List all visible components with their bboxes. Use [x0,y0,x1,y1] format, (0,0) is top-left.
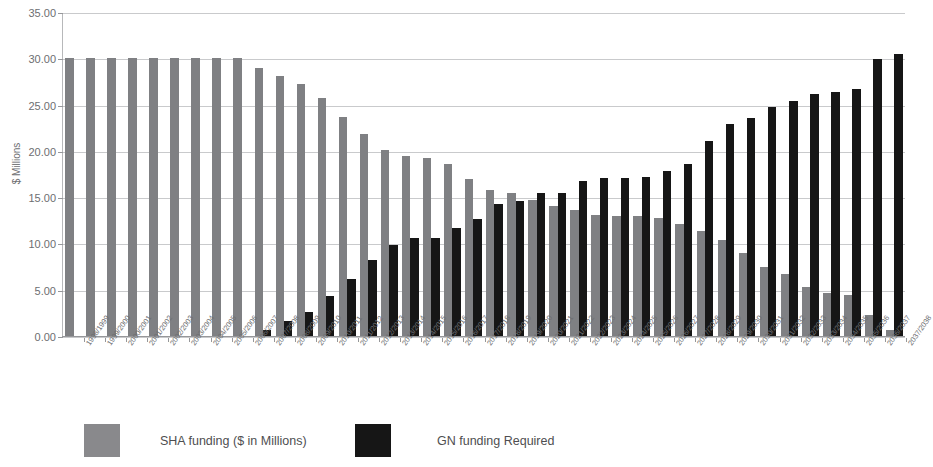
bar-group [358,13,379,336]
bar-group [84,13,105,336]
bar-group [189,13,210,336]
bar-group [252,13,273,336]
legend-item-gn: GN funding Required [355,424,554,457]
chart-legend: SHA funding ($ in Millions) GN funding R… [0,418,922,462]
bar-group [800,13,821,336]
bar-gn [600,178,608,336]
y-tick-label: 0.00 [35,331,56,343]
bar-gn [894,54,902,336]
bar-group [379,13,400,336]
bar-group [779,13,800,336]
legend-swatch-sha-icon [84,424,120,457]
bar-group [694,13,715,336]
bar-sha [444,164,452,336]
legend-swatch-gn-icon [355,424,391,457]
bar-gn [621,178,629,336]
bar-sha [86,58,94,336]
bar-group [526,13,547,336]
bar-sha [128,58,136,336]
bar-gn [579,181,587,336]
bar-gn [747,118,755,336]
bar-group [147,13,168,336]
bar-group [505,13,526,336]
bar-sha [255,68,263,336]
bar-sha [360,134,368,336]
bar-sha [107,58,115,336]
bar-sha [381,150,389,336]
bar-gn [852,89,860,336]
bar-group [568,13,589,336]
bar-group [63,13,84,336]
bar-sha [149,58,157,336]
bar-group [715,13,736,336]
bar-group [610,13,631,336]
bar-sha [212,58,220,336]
bar-group [737,13,758,336]
bar-sha [233,58,241,336]
y-axis-title: $ Millions [11,119,22,209]
bar-group [463,13,484,336]
legend-label-sha: SHA funding ($ in Millions) [160,434,307,448]
bar-group [126,13,147,336]
bar-group [105,13,126,336]
bar-group [231,13,252,336]
bar-gn [516,201,524,336]
bar-sha [465,179,473,336]
legend-label-gn: GN funding Required [437,434,554,448]
bar-sha [65,58,73,336]
bar-gn [705,141,713,336]
bar-group [863,13,884,336]
bar-group [631,13,652,336]
bar-gn [789,101,797,336]
bar-gn [726,124,734,336]
y-tick-label: 25.00 [28,100,56,112]
bar-group [673,13,694,336]
bar-group [295,13,316,336]
plot-area: 0.005.0010.0015.0020.0025.0030.0035.00 [62,13,905,337]
bar-group [337,13,358,336]
bar-sha [423,158,431,336]
y-tick-label: 35.00 [28,7,56,19]
y-tick-label: 10.00 [28,238,56,250]
bar-group [484,13,505,336]
bar-group [316,13,337,336]
bar-sha [486,190,494,336]
bar-sha [276,76,284,336]
bar-sha [760,267,768,336]
bar-sha [318,98,326,336]
bar-gn [768,107,776,336]
bar-group [884,13,905,336]
bar-group [273,13,294,336]
bar-sha [781,274,789,336]
bar-sha [339,117,347,336]
y-tick-label: 30.00 [28,53,56,65]
bar-group [652,13,673,336]
bar-group [758,13,779,336]
bar-group [400,13,421,336]
bar-group [421,13,442,336]
bar-series-container [63,13,905,336]
y-tick-label: 5.00 [35,285,56,297]
bar-sha [191,58,199,336]
bar-group [842,13,863,336]
bar-gn [663,171,671,336]
bar-sha [297,84,305,336]
bar-group [589,13,610,336]
bar-gn [810,94,818,336]
y-tick-label: 20.00 [28,146,56,158]
bar-sha [507,193,515,336]
bar-gn [831,92,839,336]
x-axis-labels: 1998/19991999/20002000/20012001/20022002… [63,338,906,410]
y-tick-label: 15.00 [28,192,56,204]
bar-sha [402,156,410,337]
bar-group [442,13,463,336]
bar-gn [537,193,545,336]
bar-gn [684,164,692,336]
bar-sha [170,58,178,336]
bar-gn [558,193,566,336]
bar-group [210,13,231,336]
bar-gn [642,177,650,336]
bar-group [821,13,842,336]
bar-group [547,13,568,336]
